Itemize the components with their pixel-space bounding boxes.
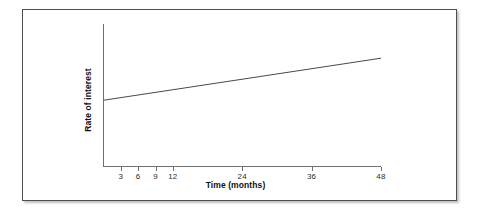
- figure-root: 36912243648 Time (months) Rate of intere…: [0, 0, 477, 210]
- y-axis-title: Rate of interest: [83, 68, 93, 131]
- x-axis-title-text: Time (months): [206, 180, 266, 190]
- x-axis-title: Time (months): [0, 180, 477, 190]
